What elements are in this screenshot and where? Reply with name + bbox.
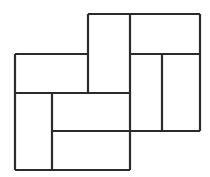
right-outer-tall-tile [162, 54, 200, 131]
top-right-wide-tile [130, 14, 200, 54]
right-inner-tall-tile [130, 54, 162, 131]
tiling-figure: Rectangular tiling figure Pinwheel-style… [0, 0, 210, 177]
middle-wide-tile [52, 93, 130, 131]
top-center-vertical-tile [88, 14, 130, 93]
bottom-wide-tile [52, 131, 130, 170]
upper-left-wide-tile [15, 54, 88, 93]
lower-left-tall-tile [15, 93, 52, 170]
